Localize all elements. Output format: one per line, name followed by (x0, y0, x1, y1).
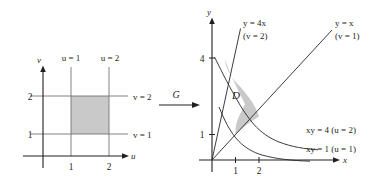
curve-label-y-4x-param: (v = 2) (243, 31, 268, 41)
gridline-label-u-2: u = 2 (101, 53, 120, 63)
right-axis-y-label: y (206, 7, 211, 17)
right-axis-y-arrowhead (209, 18, 215, 25)
gridline-label-v-1: v = 1 (133, 130, 152, 140)
left-ytick-label-1: 1 (28, 130, 33, 140)
right-xtick-label-2: 2 (257, 166, 262, 176)
figure-change-of-variables: u v 2 1 1 2 u = 1 u = 2 v = 2 v = 1 G (0, 0, 384, 181)
left-ytick-label-2: 2 (28, 92, 33, 102)
left-xtick-label-1: 1 (69, 162, 74, 172)
left-shaded-region (71, 96, 109, 134)
region-label-D: D (231, 89, 240, 101)
curve-label-xy-1: xy = 1 (u = 1) (306, 144, 356, 154)
curve-hyperbola-xy-4 (215, 57, 319, 150)
map-label-G: G (172, 89, 179, 100)
left-xtick-label-2: 2 (107, 162, 112, 172)
curve-label-y-x-param: (v = 1) (335, 31, 360, 41)
left-axis-v-label: v (37, 55, 41, 65)
gridline-label-u-1: u = 1 (62, 53, 81, 63)
left-plot-uv-plane: u v 2 1 1 2 u = 1 u = 2 v = 2 v = 1 (23, 53, 152, 172)
right-ytick-label-1: 1 (200, 130, 205, 140)
diagram-canvas: u v 2 1 1 2 u = 1 u = 2 v = 2 v = 1 G (0, 0, 384, 181)
right-plot-xy-plane: x y 4 1 1 2 D y = 4x (v = 2) y = x (v = … (199, 7, 360, 176)
curve-label-y-x: y = x (335, 18, 354, 28)
map-arrow-head (192, 102, 200, 108)
right-shaded-region-D (225, 59, 259, 135)
left-axis-u-label: u (131, 151, 136, 161)
right-ytick-label-4: 4 (200, 54, 205, 64)
right-axis-x-arrowhead (333, 157, 340, 163)
curve-label-xy-4: xy = 4 (u = 2) (306, 125, 356, 135)
gridline-label-v-2: v = 2 (133, 92, 152, 102)
curve-label-y-4x: y = 4x (243, 18, 267, 28)
left-axis-u-arrowhead (122, 153, 129, 159)
curve-line-y-x (212, 30, 332, 160)
right-axis-x-label: x (342, 155, 347, 165)
left-axis-v-arrowhead (40, 66, 46, 73)
map-arrow-group: G (159, 89, 200, 108)
right-xtick-label-1: 1 (233, 166, 238, 176)
